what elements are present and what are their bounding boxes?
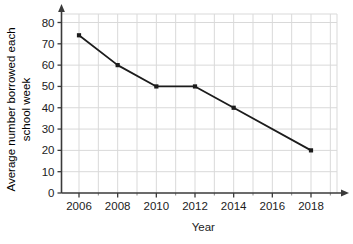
chart-canvas: 2006200820102012201420162018 01020304050… — [0, 0, 353, 244]
x-tick-label: 2012 — [182, 200, 208, 212]
data-point-marker — [232, 106, 236, 110]
data-point-marker — [77, 33, 81, 37]
x-axis-title: Year — [192, 221, 215, 233]
y-tick-label: 30 — [42, 123, 55, 135]
line-chart: 2006200820102012201420162018 01020304050… — [0, 0, 353, 244]
y-tick-label: 40 — [42, 102, 55, 114]
y-tick-label: 70 — [42, 38, 55, 50]
x-tick-label: 2008 — [105, 200, 131, 212]
data-point-marker — [154, 84, 158, 88]
y-axis-title-line: Average number borrowed each — [5, 27, 17, 191]
x-tick-label: 2018 — [298, 200, 324, 212]
data-point-marker — [309, 148, 313, 152]
y-axis-tick-labels: 01020304050607080 — [42, 17, 55, 200]
y-tick-label: 0 — [48, 187, 54, 199]
data-point-marker — [116, 63, 120, 67]
x-tick-label: 2006 — [66, 200, 92, 212]
y-axis-title-line: school week — [20, 78, 32, 142]
y-tick-label: 50 — [42, 80, 55, 92]
x-tick-label: 2016 — [260, 200, 286, 212]
y-tick-label: 80 — [42, 17, 55, 29]
x-tick-label: 2010 — [144, 200, 170, 212]
y-tick-label: 60 — [42, 59, 55, 71]
x-tick-label: 2014 — [221, 200, 247, 212]
y-tick-label: 10 — [42, 166, 55, 178]
data-point-marker — [193, 84, 197, 88]
y-tick-label: 20 — [42, 144, 55, 156]
